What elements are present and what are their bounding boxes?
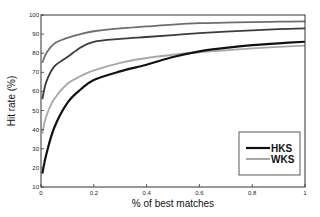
- hit-rate-chart: 102030405060708090100 00.20.40.60.81 Hit…: [0, 0, 320, 217]
- y-tick-label: 80: [32, 50, 39, 56]
- y-tick-label: 20: [32, 165, 39, 171]
- legend: HKS WKS: [239, 132, 300, 175]
- x-tick-label: 0: [39, 190, 43, 196]
- y-axis-label: Hit rate (%): [6, 76, 17, 127]
- legend-wks-label: WKS: [271, 154, 295, 165]
- x-tick-label: 0.6: [195, 190, 204, 196]
- y-axis-ticks: 102030405060708090100: [29, 12, 44, 190]
- x-tick-label: 0.8: [248, 190, 257, 196]
- y-tick-label: 50: [32, 108, 39, 114]
- y-tick-label: 70: [32, 69, 39, 75]
- legend-hks-label: HKS: [271, 143, 292, 154]
- y-tick-label: 40: [32, 127, 39, 133]
- x-tick-label: 1: [303, 190, 307, 196]
- x-tick-label: 0.4: [142, 190, 151, 196]
- y-tick-label: 60: [32, 88, 39, 94]
- x-axis-label: % of best matches: [132, 198, 214, 209]
- y-tick-label: 90: [32, 31, 39, 37]
- y-tick-label: 30: [32, 146, 39, 152]
- y-tick-label: 100: [29, 12, 40, 18]
- x-axis-ticks: 00.20.40.60.81: [39, 184, 307, 196]
- x-tick-label: 0.2: [90, 190, 99, 196]
